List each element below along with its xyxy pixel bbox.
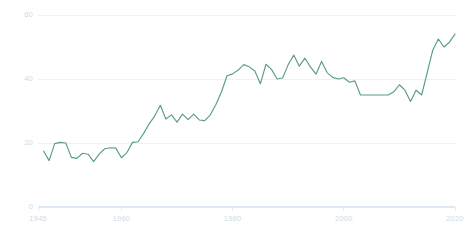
x-tick-label-2000: 2000 — [335, 214, 353, 223]
x-tick-label-1945: 1945 — [29, 214, 47, 223]
chart-svg: 0204060 19451960198020002020 — [0, 0, 465, 236]
x-tick-label-1960: 1960 — [113, 214, 131, 223]
line-chart-container: 0204060 19451960198020002020 — [0, 0, 465, 236]
x-tick-label-1980: 1980 — [224, 214, 242, 223]
y-tick-label-60: 60 — [24, 10, 33, 19]
y-tick-label-0: 0 — [29, 202, 33, 211]
y-tick-label-20: 20 — [24, 138, 33, 147]
y-tick-label-40: 40 — [24, 74, 33, 83]
chart-background — [0, 0, 465, 236]
x-tick-label-2020: 2020 — [446, 214, 464, 223]
